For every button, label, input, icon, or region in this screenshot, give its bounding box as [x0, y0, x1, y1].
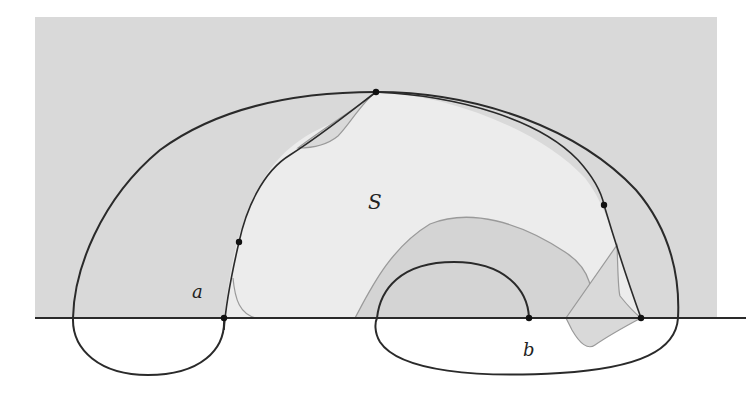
label-b: b — [523, 339, 535, 360]
label-S: S — [368, 190, 382, 214]
right-axis-point — [638, 315, 644, 321]
point-a — [221, 315, 227, 321]
right-curve-point — [601, 202, 607, 208]
top-point — [373, 89, 379, 95]
left-curve-point — [236, 239, 242, 245]
point-b — [526, 315, 532, 321]
diagram-canvas: S a b — [0, 0, 750, 396]
label-a: a — [192, 281, 203, 302]
